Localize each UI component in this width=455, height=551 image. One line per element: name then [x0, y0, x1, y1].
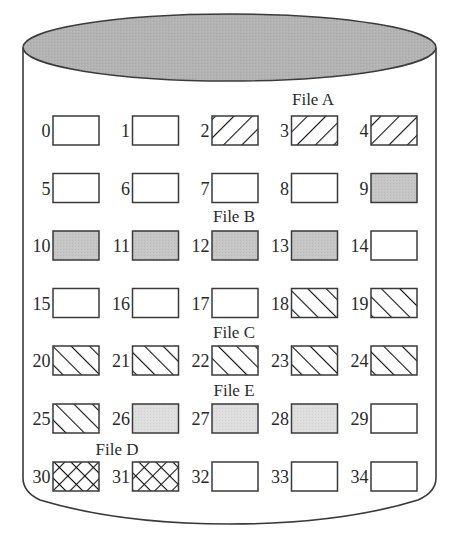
block-number: 5 [42, 179, 51, 199]
block-number: 17 [192, 294, 210, 314]
disk-block-25: 25 [33, 404, 100, 433]
disk-block-28: 28 [271, 404, 338, 433]
file-label-d: File D [96, 440, 139, 459]
disk-block-21: 21 [112, 346, 179, 375]
block-number: 27 [192, 409, 210, 429]
disk-block-9: 9 [360, 174, 418, 203]
block-cell [212, 174, 258, 203]
block-number: 22 [192, 351, 210, 371]
block-cell [133, 289, 179, 318]
cylinder-top-texture [23, 14, 436, 81]
disk-block-18: 18 [271, 289, 338, 318]
block-number: 1 [121, 121, 130, 141]
disk-block-0: 0 [42, 116, 100, 145]
block-number: 11 [113, 236, 130, 256]
disk-block-5: 5 [42, 174, 100, 203]
block-cell [292, 116, 338, 145]
block-cell [371, 346, 417, 375]
block-cell [371, 289, 417, 318]
block-cell [53, 404, 99, 433]
block-cell [212, 462, 258, 491]
block-number: 4 [360, 121, 369, 141]
block-number: 24 [351, 351, 369, 371]
block-number: 9 [360, 179, 369, 199]
disk-block-32: 32 [192, 462, 259, 491]
block-number: 3 [280, 121, 289, 141]
block-number: 19 [351, 294, 369, 314]
disk-block-19: 19 [351, 289, 418, 318]
disk-block-31: 31 [112, 462, 179, 491]
block-cell [133, 174, 179, 203]
file-label-a: File A [292, 90, 335, 109]
disk-block-17: 17 [192, 289, 259, 318]
block-number: 26 [112, 409, 130, 429]
block-number: 12 [192, 236, 210, 256]
block-number: 2 [201, 121, 210, 141]
block-number: 34 [351, 467, 369, 487]
block-cell [53, 462, 99, 491]
disk-block-14: 14 [351, 231, 418, 260]
block-number: 18 [271, 294, 289, 314]
disk-block-34: 34 [351, 462, 418, 491]
block-cell [212, 289, 258, 318]
disk-block-24: 24 [351, 346, 418, 375]
disk-diagram: File AFile BFile CFile EFile D 012345678… [0, 0, 455, 551]
block-cell [371, 404, 417, 433]
file-label-e: File E [213, 381, 254, 400]
block-number: 7 [201, 179, 210, 199]
block-number: 8 [280, 179, 289, 199]
block-cell [292, 346, 338, 375]
block-cell [371, 231, 417, 260]
block-number: 29 [351, 409, 369, 429]
block-cell [133, 462, 179, 491]
disk-block-7: 7 [201, 174, 259, 203]
disk-block-33: 33 [271, 462, 338, 491]
disk-block-10: 10 [33, 231, 100, 260]
block-number: 30 [33, 467, 51, 487]
block-cell [292, 289, 338, 318]
disk-block-29: 29 [351, 404, 418, 433]
disk-block-4: 4 [360, 116, 418, 145]
disk-block-15: 15 [33, 289, 100, 318]
block-cell [292, 462, 338, 491]
block-cell [53, 116, 99, 145]
block-cell [212, 346, 258, 375]
block-number: 28 [271, 409, 289, 429]
block-number: 32 [192, 467, 210, 487]
block-cell [133, 346, 179, 375]
block-cell [133, 116, 179, 145]
block-cell [53, 174, 99, 203]
block-number: 31 [112, 467, 130, 487]
file-label-c: File C [213, 323, 255, 342]
disk-block-30: 30 [33, 462, 100, 491]
file-label-b: File B [213, 207, 255, 226]
block-cell [371, 462, 417, 491]
block-number: 23 [271, 351, 289, 371]
disk-block-12: 12 [192, 231, 259, 260]
block-number: 20 [33, 351, 51, 371]
disk-block-20: 20 [33, 346, 100, 375]
block-number: 15 [33, 294, 51, 314]
disk-block-16: 16 [112, 289, 179, 318]
block-number: 21 [112, 351, 130, 371]
disk-block-8: 8 [280, 174, 338, 203]
disk-block-6: 6 [121, 174, 179, 203]
block-number: 25 [33, 409, 51, 429]
disk-block-22: 22 [192, 346, 259, 375]
block-number: 16 [112, 294, 130, 314]
disk-block-23: 23 [271, 346, 338, 375]
block-cell [53, 346, 99, 375]
block-number: 14 [351, 236, 369, 256]
block-cell [53, 289, 99, 318]
block-number: 6 [121, 179, 130, 199]
block-cell [212, 116, 258, 145]
block-number: 0 [42, 121, 51, 141]
disk-block-26: 26 [112, 404, 179, 433]
block-number: 10 [33, 236, 51, 256]
disk-diagram-svg: File AFile BFile CFile EFile D 012345678… [0, 0, 455, 551]
block-number: 33 [271, 467, 289, 487]
disk-block-27: 27 [192, 404, 259, 433]
disk-block-1: 1 [121, 116, 179, 145]
disk-block-11: 11 [113, 231, 179, 260]
disk-block-2: 2 [201, 116, 259, 145]
